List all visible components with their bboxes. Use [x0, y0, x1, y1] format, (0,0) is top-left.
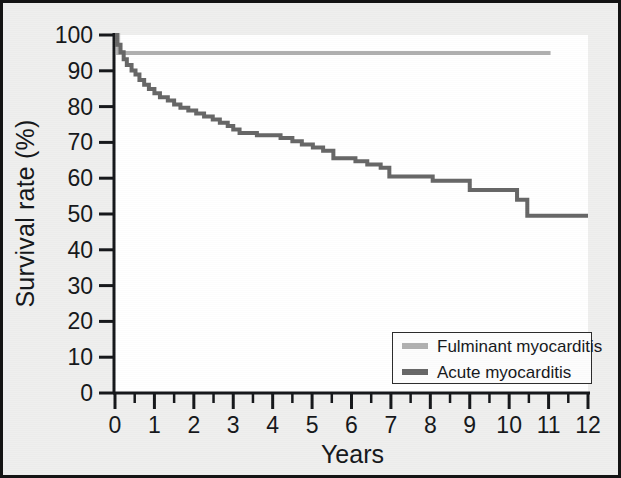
chart-legend: Fulminant myocarditis Acute myocarditis: [392, 332, 592, 384]
x-tick-label: 2: [187, 412, 200, 438]
legend-label-acute: Acute myocarditis: [437, 364, 571, 381]
x-tick-label: 4: [266, 412, 279, 438]
x-axis-major-ticks: [115, 393, 588, 409]
y-tick-label: 0: [80, 380, 93, 406]
y-tick-label: 100: [55, 22, 93, 48]
x-tick-label: 0: [109, 412, 122, 438]
x-tick-label: 8: [424, 412, 437, 438]
legend-item-fulminant: Fulminant myocarditis: [393, 333, 591, 359]
legend-label-fulminant: Fulminant myocarditis: [437, 338, 602, 355]
y-tick-label: 10: [67, 344, 93, 370]
legend-item-acute: Acute myocarditis: [393, 359, 591, 385]
y-tick-label: 90: [67, 58, 93, 84]
x-tick-label: 3: [227, 412, 240, 438]
y-tick-label: 40: [67, 237, 93, 263]
x-tick-label: 7: [385, 412, 398, 438]
y-axis-title-text: Survival rate (%): [11, 119, 39, 307]
x-tick-label: 5: [306, 412, 319, 438]
y-tick-label: 60: [67, 165, 93, 191]
y-axis-ticks: [99, 35, 114, 393]
x-tick-label: 1: [148, 412, 161, 438]
survival-chart-plot: 0102030405060708090100 0123456789101112: [3, 3, 621, 478]
figure-frame: 0102030405060708090100 0123456789101112 …: [0, 0, 621, 478]
x-axis-tick-labels: 0123456789101112: [109, 412, 601, 438]
y-tick-label: 30: [67, 273, 93, 299]
y-tick-label: 20: [67, 308, 93, 334]
y-axis-tick-labels: 0102030405060708090100: [55, 22, 93, 406]
x-axis-title-text: Years: [321, 440, 384, 468]
x-axis-title: Years: [3, 440, 621, 469]
y-tick-label: 80: [67, 94, 93, 120]
legend-swatch-fulminant: [402, 343, 428, 349]
x-tick-label: 10: [496, 412, 522, 438]
x-tick-label: 6: [345, 412, 358, 438]
y-axis-title: Survival rate (%): [11, 24, 40, 404]
x-tick-label: 12: [575, 412, 601, 438]
y-tick-label: 70: [67, 129, 93, 155]
legend-swatch-acute: [402, 369, 428, 375]
x-tick-label: 9: [463, 412, 476, 438]
y-tick-label: 50: [67, 201, 93, 227]
x-tick-label: 11: [537, 412, 561, 438]
